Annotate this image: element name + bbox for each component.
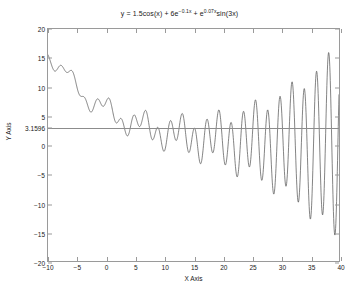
y-tick-mark (48, 87, 52, 88)
title-exponent-2: 0.07x (204, 8, 217, 14)
x-tick-label: −5 (74, 261, 81, 271)
x-tick-label: 10 (162, 261, 169, 271)
y-tick-mark (48, 204, 52, 205)
y-axis-label: Y Axis (5, 112, 12, 152)
x-tick-mark-top (341, 29, 342, 33)
x-axis-label: X Axis (47, 275, 340, 282)
title-lead: y = 1.5cos(x) + 6e (121, 10, 179, 17)
y-tick-label: −15 (34, 230, 48, 237)
x-tick-label: 5 (134, 261, 138, 271)
x-tick-label: 0 (105, 261, 109, 271)
x-tick-label: 20 (220, 261, 227, 271)
x-tick-label: 40 (337, 261, 344, 271)
x-tick-mark (195, 257, 196, 261)
y-tick-mark (48, 175, 52, 176)
x-tick-mark (77, 257, 78, 261)
x-tick-mark-top (77, 29, 78, 33)
y-tick-mark-right (335, 175, 339, 176)
x-tick-mark-top (224, 29, 225, 33)
x-tick-mark-top (253, 29, 254, 33)
y-tick-label-special: 3.1596 (25, 124, 48, 131)
y-tick-mark-right (335, 116, 339, 117)
x-tick-mark-top (165, 29, 166, 33)
x-tick-label: −10 (42, 261, 53, 271)
x-tick-mark-top (107, 29, 108, 33)
y-tick-mark-special (48, 127, 52, 128)
y-tick-mark-right (335, 204, 339, 205)
x-tick-mark-top (48, 29, 49, 33)
plot-area: −20−15−10−5051015203.1596 −10−5051015202… (47, 28, 340, 262)
x-tick-mark (48, 257, 49, 261)
chart-title: y = 1.5cos(x) + 6e−0.1x + e0.07xsin(3x) (0, 10, 359, 17)
reference-line (48, 128, 339, 129)
title-exponent-1: −0.1x (179, 8, 192, 14)
x-tick-mark-top (312, 29, 313, 33)
title-mid: + e (191, 10, 203, 17)
x-tick-mark (224, 257, 225, 261)
y-tick-mark-right (335, 87, 339, 88)
x-tick-mark-top (195, 29, 196, 33)
y-tick-label: 0 (41, 143, 48, 150)
x-tick-mark (165, 257, 166, 261)
x-tick-label: 25 (249, 261, 256, 271)
y-tick-mark (48, 116, 52, 117)
x-tick-mark (107, 257, 108, 261)
y-tick-mark (48, 58, 52, 59)
y-tick-mark (48, 233, 52, 234)
x-tick-label: 15 (191, 261, 198, 271)
y-tick-label: 20 (38, 26, 48, 33)
y-tick-label: −10 (34, 201, 48, 208)
y-tick-mark-right (335, 29, 339, 30)
x-tick-mark-top (136, 29, 137, 33)
x-tick-mark (282, 257, 283, 261)
x-tick-label: 35 (308, 261, 315, 271)
data-series-line (48, 53, 339, 235)
y-tick-label: −5 (38, 172, 48, 179)
title-tail: sin(3x) (217, 10, 239, 17)
x-tick-label: 30 (279, 261, 286, 271)
y-tick-mark-right (335, 146, 339, 147)
y-tick-mark-right (335, 58, 339, 59)
x-tick-mark-top (282, 29, 283, 33)
y-tick-label: 15 (38, 55, 48, 62)
curve-svg (48, 29, 339, 261)
x-tick-mark (341, 257, 342, 261)
x-tick-mark (312, 257, 313, 261)
figure-canvas: y = 1.5cos(x) + 6e−0.1x + e0.07xsin(3x) … (0, 0, 359, 291)
y-tick-label: 10 (38, 84, 48, 91)
y-tick-mark-right (335, 233, 339, 234)
x-tick-mark (253, 257, 254, 261)
x-tick-mark (136, 257, 137, 261)
y-tick-mark (48, 146, 52, 147)
y-tick-label: 5 (41, 113, 48, 120)
